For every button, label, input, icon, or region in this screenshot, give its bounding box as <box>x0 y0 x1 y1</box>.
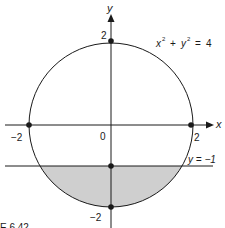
point-intercept <box>108 163 114 169</box>
tick-y-pos: 2 <box>101 30 107 41</box>
y-axis-arrow-icon <box>108 14 115 22</box>
eq-y: y <box>180 38 187 49</box>
point-top <box>108 38 114 44</box>
tick-x-neg: −2 <box>11 132 23 143</box>
eq-x-exp: 2 <box>162 36 166 42</box>
point-right <box>188 122 194 128</box>
line-equation: y = −1 <box>187 154 216 165</box>
eq-y-exp: 2 <box>187 36 191 42</box>
figure-caption: E 6.42 <box>0 222 29 228</box>
x-axis-arrow-icon <box>206 122 214 129</box>
eq-x: x <box>155 38 162 49</box>
eq-plus: + <box>170 38 176 49</box>
circle-equation: x 2 + y 2 = 4 <box>155 36 212 49</box>
point-bottom <box>108 204 114 210</box>
eq-equals: = <box>195 38 201 49</box>
tick-y-neg: −2 <box>90 212 102 223</box>
eq-rhs: 4 <box>206 38 212 49</box>
circle-diagram: y x 0 2 −2 2 −2 x 2 + y 2 = 4 y = −1 E 6… <box>0 0 225 228</box>
tick-x-pos: 2 <box>194 132 200 143</box>
x-axis-label: x <box>215 118 222 130</box>
origin-label: 0 <box>100 131 106 142</box>
y-axis-label: y <box>106 2 114 14</box>
point-left <box>26 122 32 128</box>
